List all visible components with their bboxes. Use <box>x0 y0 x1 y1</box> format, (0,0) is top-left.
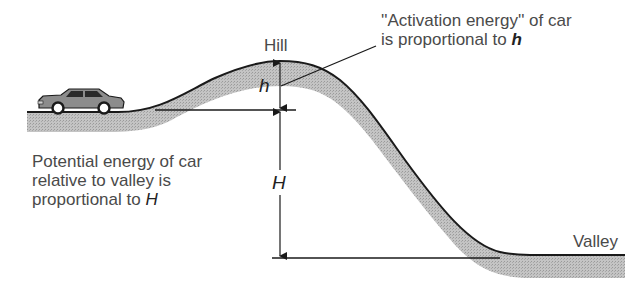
valley-label: Valley <box>573 232 618 251</box>
H-symbol: H <box>272 173 286 192</box>
activation-annotation-text: is proportional to <box>381 30 511 49</box>
car-icon <box>38 89 124 114</box>
potential-annotation-text: proportional to <box>32 190 145 209</box>
potential-energy-annotation: Potential energy of car relative to vall… <box>32 152 202 209</box>
activation-annotation-line1: ''Activation energy'' of car <box>381 11 572 30</box>
activation-annotation-line2: is proportional to h <box>381 30 572 49</box>
potential-annotation-line1: Potential energy of car <box>32 152 202 171</box>
potential-annotation-line2: relative to valley is <box>32 171 202 190</box>
hill-label: Hill <box>264 36 288 55</box>
potential-annotation-line3: proportional to H <box>32 190 202 209</box>
h-variable: h <box>511 30 521 49</box>
h-symbol: h <box>259 76 270 95</box>
activation-energy-annotation: ''Activation energy'' of car is proporti… <box>381 11 572 49</box>
H-variable: H <box>145 190 157 209</box>
